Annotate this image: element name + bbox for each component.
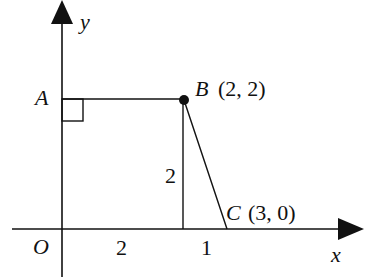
point-b: [179, 95, 189, 105]
x-axis-label: x: [330, 242, 341, 267]
point-a-label: A: [33, 85, 49, 110]
point-b-label: B: [195, 76, 208, 101]
point-b-coords: (2, 2): [218, 76, 266, 101]
y-axis-arrow-icon: [51, 0, 73, 24]
x-axis-arrow-icon: [338, 218, 364, 240]
height-label-bd: 2: [165, 163, 176, 188]
origin-label: O: [33, 234, 49, 259]
length-label-dc: 1: [201, 235, 212, 260]
coordinate-diagram: y x O A B (2, 2) C (3, 0) 2 1 2: [0, 0, 365, 277]
y-axis-label: y: [78, 9, 90, 34]
point-c-label: C: [226, 200, 241, 225]
segment-bc: [184, 100, 227, 229]
length-label-od: 2: [116, 235, 127, 260]
right-angle-marker: [62, 99, 83, 121]
point-c-coords: (3, 0): [248, 200, 296, 225]
